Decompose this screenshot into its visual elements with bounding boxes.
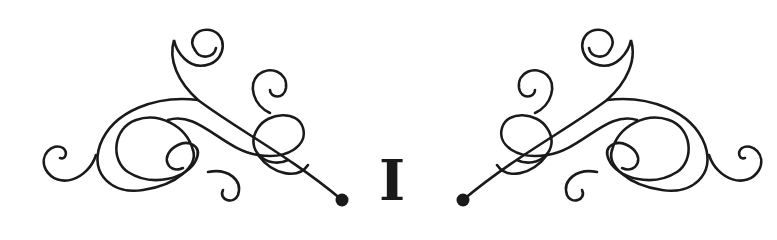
chapter-numeral: I [372,150,412,210]
left-ornament-dot [336,194,349,207]
left-ornament [44,30,349,207]
right-ornament [457,30,762,207]
right-ornament-dot [457,194,470,207]
